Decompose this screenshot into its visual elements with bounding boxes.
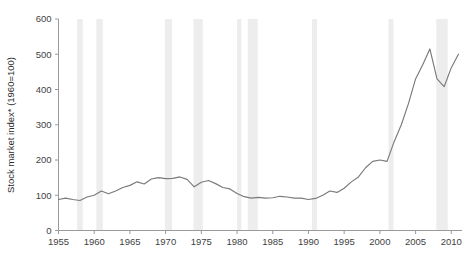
x-axis-tick-label: 1980 bbox=[226, 236, 247, 247]
y-tick-group: 0100200300400500600 bbox=[36, 13, 59, 236]
x-axis-tick-label: 1965 bbox=[119, 236, 140, 247]
x-axis-tick-label: 2010 bbox=[441, 236, 462, 247]
y-axis-tick-label: 200 bbox=[36, 154, 52, 165]
y-axis-tick-label: 400 bbox=[36, 84, 52, 95]
y-axis-tick-label: 100 bbox=[36, 190, 52, 201]
recession-band bbox=[77, 19, 83, 231]
series-line-stock-market-index bbox=[59, 49, 459, 201]
recession-band bbox=[96, 19, 102, 231]
x-axis-tick-label: 1970 bbox=[155, 236, 176, 247]
x-axis-tick-label: 2000 bbox=[369, 236, 390, 247]
y-axis-tick-label: 0 bbox=[46, 225, 51, 236]
recession-band bbox=[388, 19, 393, 231]
data-series-group bbox=[59, 49, 459, 201]
recession-band bbox=[165, 19, 172, 231]
y-axis-title: Stock market index* (1960=100) bbox=[5, 57, 16, 193]
recession-band bbox=[193, 19, 202, 231]
x-axis-tick-label: 1975 bbox=[191, 236, 212, 247]
stock-market-index-line-chart: 0100200300400500600 19551960196519701975… bbox=[0, 0, 468, 264]
x-tick-group: 1955196019651970197519801985199019952000… bbox=[48, 231, 462, 248]
x-axis-tick-label: 1990 bbox=[298, 236, 319, 247]
x-axis-tick-label: 1985 bbox=[262, 236, 283, 247]
y-axis-tick-label: 600 bbox=[36, 13, 52, 24]
x-axis-tick-label: 2005 bbox=[405, 236, 426, 247]
recession-band bbox=[237, 19, 241, 231]
x-axis-tick-label: 1960 bbox=[84, 236, 105, 247]
recession-band-group bbox=[77, 19, 448, 231]
x-axis-tick-label: 1955 bbox=[48, 236, 69, 247]
recession-band bbox=[436, 19, 447, 231]
y-axis-tick-label: 300 bbox=[36, 119, 52, 130]
y-axis-tick-label: 500 bbox=[36, 49, 52, 60]
chart-container: 0100200300400500600 19551960196519701975… bbox=[0, 0, 468, 264]
x-axis-tick-label: 1995 bbox=[334, 236, 355, 247]
recession-band bbox=[248, 19, 258, 231]
